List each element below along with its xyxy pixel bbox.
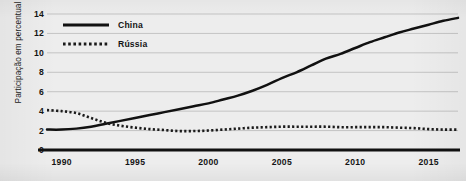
x-axis-tick-label: 1995 bbox=[125, 157, 145, 167]
y-axis-tick-label: 2 bbox=[22, 126, 44, 136]
x-axis-tick-label: 2005 bbox=[272, 157, 292, 167]
legend-label-china: China bbox=[118, 20, 143, 30]
y-axis-tick-label: 10 bbox=[22, 48, 44, 58]
x-axis-tick-label: 1990 bbox=[52, 157, 72, 167]
y-axis-tick-label: 6 bbox=[22, 87, 44, 97]
y-axis-tick-label: 12 bbox=[22, 28, 44, 38]
legend-label-russia: Rússia bbox=[118, 39, 147, 49]
legend-item-china: China bbox=[62, 18, 147, 32]
series-line-rssia bbox=[47, 110, 458, 131]
x-axis-tick-labels: 199019952000200520102015 bbox=[0, 157, 466, 173]
legend-item-russia: Rússia bbox=[62, 37, 147, 51]
y-axis-tick-label: 8 bbox=[22, 67, 44, 77]
y-axis-tick-labels: 02468101214 bbox=[22, 0, 44, 181]
x-axis-tick-label: 2010 bbox=[345, 157, 365, 167]
legend-swatch-solid-line-icon bbox=[62, 20, 110, 30]
x-axis-tick-label: 2015 bbox=[418, 157, 438, 167]
y-axis-tick-label: 4 bbox=[22, 106, 44, 116]
legend-swatch-dotted-line-icon bbox=[62, 39, 110, 49]
line-chart: Participação em percentual 02468101214 1… bbox=[0, 0, 466, 181]
legend: China Rússia bbox=[62, 18, 147, 56]
x-axis-tick-label: 2000 bbox=[198, 157, 218, 167]
y-axis-tick-label: 14 bbox=[22, 9, 44, 19]
